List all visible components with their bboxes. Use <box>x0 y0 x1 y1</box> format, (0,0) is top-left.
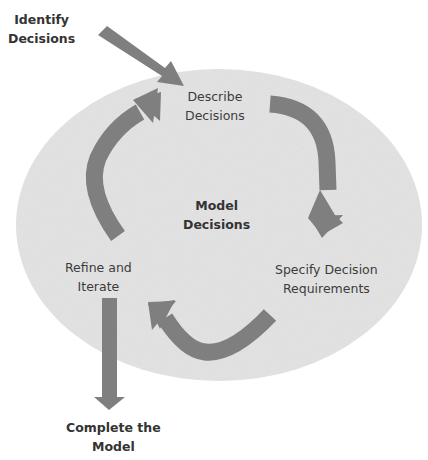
label-refine-and-iterate: Refine and Iterate <box>65 258 132 296</box>
label-specify-decision-requirements: Specify Decision Requirements <box>275 260 378 298</box>
arrow-identify-to-describe <box>98 26 184 86</box>
label-complete-the-model: Complete the Model <box>66 418 161 456</box>
decision-cycle-diagram: Identify Decisions Describe Decisions Mo… <box>0 0 428 460</box>
label-model-decisions: Model Decisions <box>183 196 250 234</box>
label-describe-decisions: Describe Decisions <box>185 87 245 125</box>
label-identify-decisions: Identify Decisions <box>8 10 75 48</box>
